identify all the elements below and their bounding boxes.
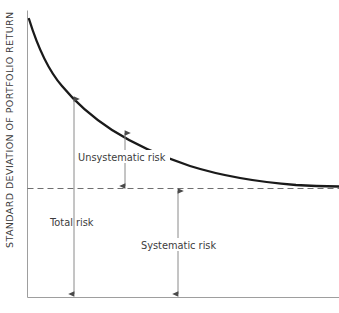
unsystematic-risk-label: Unsystematic risk: [78, 152, 166, 163]
chart-canvas: STANDARD DEVIATION OF PORTFOLIO RETURN U…: [0, 0, 339, 313]
systematic-risk-label: Systematic risk: [141, 240, 216, 251]
risk-diversification-chart: STANDARD DEVIATION OF PORTFOLIO RETURN U…: [0, 0, 339, 313]
portfolio-risk-curve: [29, 19, 339, 187]
y-axis-title: STANDARD DEVIATION OF PORTFOLIO RETURN: [4, 11, 15, 248]
total-risk-label: Total risk: [49, 217, 94, 228]
